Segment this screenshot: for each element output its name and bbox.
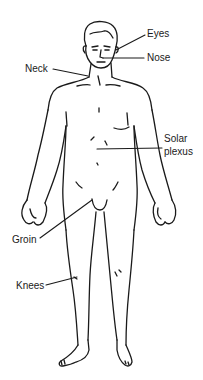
- leader-lines: [40, 35, 162, 285]
- label-eyes: Eyes: [147, 28, 169, 39]
- right-arm: [134, 110, 176, 225]
- eyes-leader-line: [116, 35, 145, 50]
- body-diagram: Eyes Nose Neck Solar plexus Groin Knees: [0, 0, 203, 380]
- neck-leader-line: [53, 69, 88, 76]
- label-groin: Groin: [12, 234, 36, 245]
- left-arm: [22, 110, 66, 225]
- left-leg: [59, 212, 96, 366]
- label-nose: Nose: [147, 52, 170, 63]
- solar-plexus-leader-line: [97, 148, 162, 149]
- label-neck: Neck: [25, 63, 48, 74]
- head: [83, 22, 118, 68]
- torso: [48, 77, 152, 230]
- label-solar-plexus-line1: Solar: [164, 133, 187, 144]
- human-figure-drawing: [0, 0, 203, 380]
- neck: [89, 63, 112, 85]
- label-solar-plexus-line2: plexus: [164, 146, 193, 157]
- label-knees: Knees: [16, 280, 44, 291]
- right-leg: [104, 212, 134, 366]
